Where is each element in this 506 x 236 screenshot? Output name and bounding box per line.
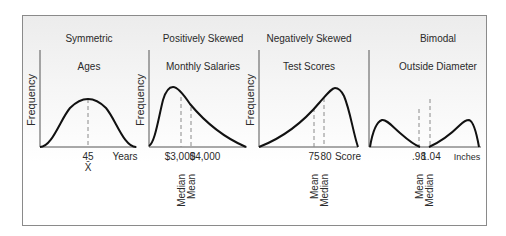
median-label: Median bbox=[424, 174, 435, 207]
panel-subject-label: Monthly Salaries bbox=[166, 61, 240, 72]
tick-label: 1.04 bbox=[421, 151, 441, 162]
tick-label: 75 bbox=[308, 151, 320, 162]
tick-label: $4,000 bbox=[190, 151, 221, 162]
mean-label: Mean bbox=[186, 174, 197, 199]
panel-bimodal: Bimodal Outside Diameter .98 1.04 Inches… bbox=[369, 33, 481, 207]
panel-symmetric: Symmetric Ages Frequency 45 X̄ Years bbox=[25, 33, 138, 173]
distribution-curve-right-mode bbox=[429, 120, 479, 147]
panel-subject-label: Outside Diameter bbox=[399, 61, 477, 72]
panel-type-label: Bimodal bbox=[420, 33, 456, 44]
x-unit-label: Years bbox=[112, 151, 137, 162]
panel-positively-skewed: Positively Skewed Monthly Salaries Frequ… bbox=[134, 33, 247, 207]
panel-type-label: Negatively Skewed bbox=[266, 33, 351, 44]
panel-type-label: Positively Skewed bbox=[163, 33, 244, 44]
distribution-curve-left-mode bbox=[370, 120, 420, 147]
x-unit-label: Inches bbox=[454, 152, 481, 162]
y-axis-label: Frequency bbox=[134, 74, 146, 126]
panel-subject-label: Ages bbox=[78, 61, 101, 72]
xbar-label: X̄ bbox=[85, 161, 92, 173]
tick-label: 45 bbox=[82, 151, 94, 162]
panel-subject-label: Test Scores bbox=[283, 61, 335, 72]
x-unit-label: Score bbox=[335, 151, 362, 162]
distribution-curve bbox=[259, 88, 358, 147]
panel-type-label: Symmetric bbox=[65, 33, 112, 44]
panel-negatively-skewed: Negatively Skewed Test Scores Frequency … bbox=[244, 33, 361, 207]
distribution-shapes-diagram: Symmetric Ages Frequency 45 X̄ Years Pos… bbox=[0, 0, 506, 236]
median-label: Median bbox=[319, 174, 330, 207]
y-axis-label: Frequency bbox=[25, 74, 37, 126]
distribution-curve bbox=[149, 87, 246, 147]
tick-label: 80 bbox=[320, 151, 332, 162]
y-axis-label: Frequency bbox=[244, 74, 256, 126]
